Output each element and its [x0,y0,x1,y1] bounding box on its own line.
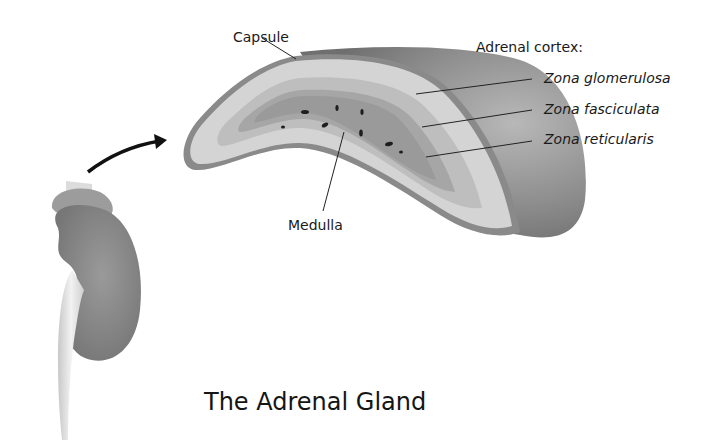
label-zona-reticularis: Zona reticularis [544,131,654,147]
adrenal-diagram [0,0,716,444]
label-zona-glomerulosa: Zona glomerulosa [544,70,671,86]
diagram-title: The Adrenal Gland [204,388,426,416]
kidney-illustration [52,181,141,440]
label-zona-fasciculata: Zona fasciculata [544,101,660,117]
label-medulla: Medulla [288,217,343,233]
label-adrenal-cortex: Adrenal cortex: [476,39,583,55]
label-capsule: Capsule [233,29,289,45]
arrow-icon [88,134,167,172]
